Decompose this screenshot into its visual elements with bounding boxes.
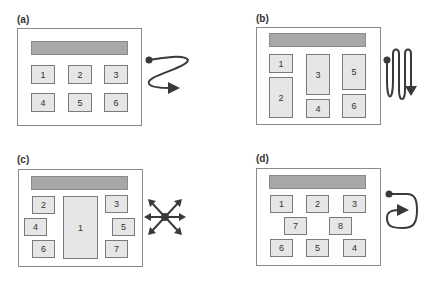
layout-box: 7 [105, 240, 128, 258]
layout-box: 7 [284, 217, 307, 235]
layout-box: 6 [270, 239, 293, 257]
layout-box: 3 [105, 195, 128, 213]
layout-box: 2 [68, 65, 92, 84]
layout-box: 4 [343, 239, 366, 257]
layout-box: 3 [306, 54, 330, 95]
layout-box: 2 [32, 196, 55, 214]
layout-box: 4 [31, 93, 55, 112]
layout-box: 6 [104, 93, 128, 112]
layout-box: 5 [68, 93, 92, 112]
layout-box: 3 [343, 195, 366, 213]
layout-box: 5 [112, 218, 135, 236]
layout-box: 4 [24, 218, 47, 236]
radial-arrows-icon [146, 197, 184, 237]
layout-box: 1 [270, 195, 293, 213]
layout-box: 5 [306, 239, 329, 257]
z-pattern-icon [144, 54, 184, 100]
panel-label: (b) [256, 13, 269, 24]
layout-box: 1 [63, 196, 98, 259]
layout-box: 1 [269, 54, 293, 73]
panel-label: (c) [17, 154, 29, 165]
layout-box: 6 [342, 94, 366, 118]
vertical-zigzag-icon [383, 50, 419, 102]
layout-box: 1 [31, 65, 55, 84]
clockwise-loop-icon [385, 188, 425, 232]
panel-label: (d) [256, 153, 269, 164]
layout-box: 2 [306, 195, 329, 213]
layout-box: 8 [329, 217, 352, 235]
header-bar [31, 176, 128, 190]
layout-box: 2 [269, 77, 293, 118]
layout-box: 3 [104, 65, 128, 84]
header-bar [269, 33, 366, 47]
panel-label: (a) [17, 14, 29, 25]
header-bar [269, 175, 366, 189]
layout-box: 4 [306, 99, 330, 118]
header-bar [31, 41, 128, 55]
layout-box: 5 [342, 54, 366, 90]
layout-box: 6 [32, 240, 55, 258]
